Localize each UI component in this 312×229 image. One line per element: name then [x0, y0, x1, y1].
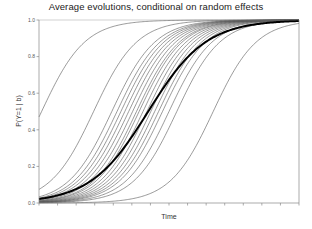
subject-curve — [39, 20, 299, 201]
curves-group — [39, 20, 299, 203]
y-tick-label: 0.2 — [28, 163, 35, 169]
y-tick-label: 0.0 — [28, 200, 35, 206]
plot-area: 0.00.20.40.60.81.0 — [0, 0, 312, 229]
subject-curve — [39, 20, 299, 199]
y-tick-label: 0.8 — [28, 53, 35, 59]
subject-curve — [39, 20, 299, 201]
subject-curve — [39, 20, 299, 200]
subject-curve — [39, 20, 299, 200]
y-tick-label: 0.6 — [28, 90, 35, 96]
subject-curve — [39, 20, 299, 201]
y-tick-label: 1.0 — [28, 17, 35, 23]
subject-curve — [39, 20, 299, 189]
axes-group: 0.00.20.40.60.81.0 — [28, 17, 299, 206]
subject-curve — [39, 20, 299, 202]
subject-curve — [39, 20, 299, 197]
subject-curve — [39, 23, 299, 203]
average-curve — [39, 21, 299, 199]
y-tick-label: 0.4 — [28, 127, 35, 133]
